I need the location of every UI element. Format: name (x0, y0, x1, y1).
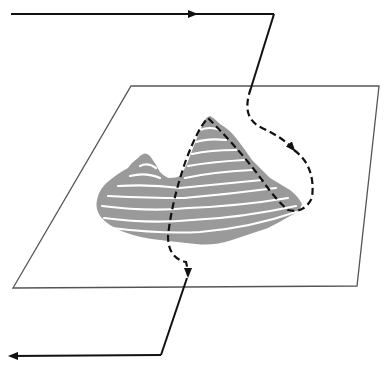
outgoing-path (10, 278, 187, 356)
mountain-terrain (96, 116, 302, 245)
terrain-path-diagram (0, 0, 384, 376)
incoming-path (11, 14, 274, 88)
